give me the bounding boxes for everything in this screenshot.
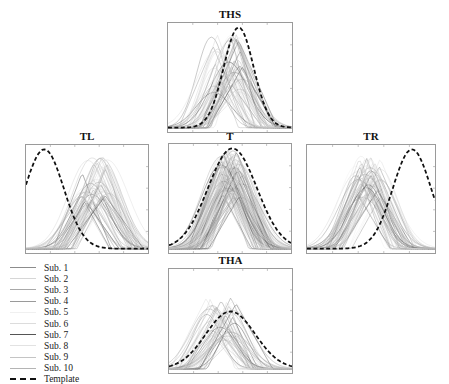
subject-curve <box>168 40 292 127</box>
panel-title-tl: TL <box>25 131 149 142</box>
solid-line-icon <box>10 345 36 346</box>
legend: Sub. 1Sub. 2Sub. 3Sub. 4Sub. 5Sub. 6Sub.… <box>10 262 82 384</box>
legend-item: Sub. 3 <box>10 284 82 295</box>
legend-label: Sub. 5 <box>44 307 68 317</box>
legend-item: Sub. 5 <box>10 307 82 318</box>
legend-label: Template <box>44 374 79 384</box>
plot-tr <box>306 144 436 254</box>
legend-label: Sub. 6 <box>44 319 68 329</box>
legend-item: Sub. 6 <box>10 318 82 329</box>
legend-item: Template <box>10 374 82 384</box>
subject-curve <box>307 196 435 249</box>
plot-tl <box>25 144 149 254</box>
legend-label: Sub. 4 <box>44 296 68 306</box>
plot-t <box>168 143 292 254</box>
subject-curve <box>169 308 292 369</box>
legend-label: Sub. 8 <box>44 341 68 351</box>
plot-tha <box>168 268 293 374</box>
legend-item: Sub. 8 <box>10 340 82 351</box>
subject-curve <box>307 195 435 249</box>
legend-item: Sub. 10 <box>10 363 82 374</box>
dashed-line-icon <box>10 378 36 380</box>
panel-title-ths: THS <box>167 9 293 20</box>
panel-title-t: T <box>168 131 292 142</box>
panel-title-tr: TR <box>306 131 436 142</box>
solid-line-icon <box>10 357 36 358</box>
plot-ths <box>167 22 293 133</box>
subject-curve <box>168 38 292 128</box>
legend-item: Sub. 7 <box>10 329 82 340</box>
legend-item: Sub. 2 <box>10 273 82 284</box>
solid-line-icon <box>10 368 36 369</box>
subject-curve <box>168 39 292 128</box>
solid-line-icon <box>10 278 36 279</box>
solid-line-icon <box>10 334 36 335</box>
solid-line-icon <box>10 267 36 268</box>
subject-curve <box>168 39 292 127</box>
solid-line-icon <box>10 289 36 290</box>
solid-line-icon <box>10 323 36 324</box>
legend-item: Sub. 1 <box>10 262 82 273</box>
legend-label: Sub. 3 <box>44 285 68 295</box>
legend-label: Sub. 9 <box>44 352 68 362</box>
legend-label: Sub. 1 <box>44 263 68 273</box>
solid-line-icon <box>10 312 36 313</box>
legend-item: Sub. 9 <box>10 352 82 363</box>
solid-line-icon <box>10 301 36 302</box>
subject-curve <box>307 195 435 249</box>
template-curve <box>307 149 435 248</box>
subject-curve <box>307 195 435 248</box>
legend-label: Sub. 7 <box>44 330 68 340</box>
legend-label: Sub. 2 <box>44 274 68 284</box>
panel-title-tha: THA <box>168 255 293 266</box>
subject-curve <box>168 40 292 128</box>
legend-label: Sub. 10 <box>44 363 73 373</box>
legend-item: Sub. 4 <box>10 296 82 307</box>
